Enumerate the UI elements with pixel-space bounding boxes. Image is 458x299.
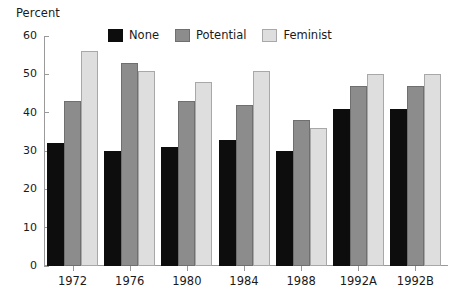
- legend-swatch-potential: [175, 29, 190, 42]
- bar-1972-potential: [64, 101, 81, 266]
- bar-1992B-none: [390, 109, 407, 266]
- bar-1980-feminist: [195, 82, 212, 266]
- y-axis-title: Percent: [16, 6, 60, 20]
- y-tick-label: 10: [23, 221, 37, 234]
- x-tick-mark: [358, 266, 359, 271]
- chart-legend: NonePotentialFeminist: [108, 29, 332, 42]
- legend-label: Feminist: [283, 29, 331, 42]
- x-tick-label: 1992A: [328, 274, 388, 288]
- legend-swatch-none: [108, 29, 123, 42]
- y-tick-label: 0: [30, 259, 37, 272]
- x-tick-mark: [415, 266, 416, 271]
- bar-1984-none: [219, 140, 236, 267]
- bar-1980-none: [161, 147, 178, 266]
- y-tick-label: 60: [23, 29, 37, 42]
- bar-1992A-feminist: [367, 74, 384, 266]
- legend-item-potential: Potential: [175, 29, 246, 42]
- bar-1976-none: [104, 151, 121, 266]
- bar-1992B-potential: [407, 86, 424, 266]
- legend-item-none: None: [108, 29, 159, 42]
- bar-chart: Percent 0102030405060 197219761980198419…: [0, 0, 458, 299]
- bar-1984-feminist: [253, 71, 270, 267]
- bar-1972-feminist: [81, 51, 98, 266]
- x-tick-label: 1988: [271, 274, 331, 288]
- legend-label: None: [129, 29, 159, 42]
- y-tick-label: 40: [23, 106, 37, 119]
- x-tick-mark: [187, 266, 188, 271]
- bar-1976-potential: [121, 63, 138, 266]
- bar-1992A-potential: [350, 86, 367, 266]
- x-tick-mark: [73, 266, 74, 271]
- bar-1984-potential: [236, 105, 253, 266]
- bar-1988-potential: [293, 120, 310, 266]
- plot-area: [44, 36, 444, 266]
- x-tick-mark: [244, 266, 245, 271]
- bar-1988-none: [276, 151, 293, 266]
- x-tick-label: 1984: [214, 274, 274, 288]
- x-tick-label: 1980: [157, 274, 217, 288]
- legend-item-feminist: Feminist: [262, 29, 331, 42]
- y-tick-label: 50: [23, 67, 37, 80]
- x-tick-mark: [130, 266, 131, 271]
- x-tick-label: 1972: [43, 274, 103, 288]
- bar-1988-feminist: [310, 128, 327, 266]
- bar-1980-potential: [178, 101, 195, 266]
- x-tick-label: 1976: [100, 274, 160, 288]
- y-tick-label: 20: [23, 182, 37, 195]
- bar-1972-none: [47, 143, 64, 266]
- y-tick-label: 30: [23, 144, 37, 157]
- bar-1992A-none: [333, 109, 350, 266]
- legend-swatch-feminist: [262, 29, 277, 42]
- x-tick-mark: [301, 266, 302, 271]
- legend-label: Potential: [196, 29, 246, 42]
- bar-1992B-feminist: [424, 74, 441, 266]
- x-tick-label: 1992B: [385, 274, 445, 288]
- bar-1976-feminist: [138, 71, 155, 267]
